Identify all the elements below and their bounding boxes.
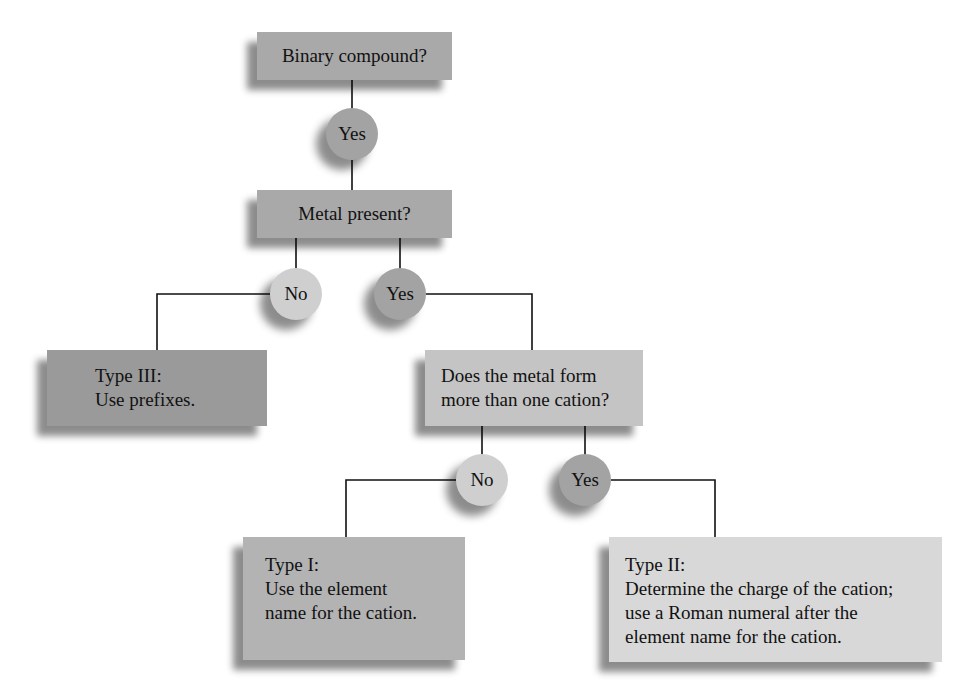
metal-present-box: Metal present? xyxy=(257,190,452,238)
no-circle-cation: No xyxy=(456,454,508,506)
cation-question-label: Does the metal form more than one cation… xyxy=(441,364,609,412)
type-ii-label: Type II: Determine the charge of the cat… xyxy=(625,553,893,649)
type-iii-label: Type III: Use prefixes. xyxy=(95,364,195,412)
binary-compound-label: Binary compound? xyxy=(257,44,452,68)
no-circle-metal: No xyxy=(270,268,322,320)
binary-compound-box: Binary compound? xyxy=(257,32,452,80)
yes-label: Yes xyxy=(386,283,414,305)
type-iii-box: Type III: Use prefixes. xyxy=(47,350,267,426)
yes-circle-metal: Yes xyxy=(374,268,426,320)
no-label: No xyxy=(284,283,307,305)
yes-label: Yes xyxy=(571,469,599,491)
cation-question-box: Does the metal form more than one cation… xyxy=(425,350,643,426)
no-label: No xyxy=(470,469,493,491)
type-i-box: Type I: Use the element name for the cat… xyxy=(243,537,465,660)
type-i-label: Type I: Use the element name for the cat… xyxy=(265,553,417,625)
metal-present-label: Metal present? xyxy=(257,202,452,226)
yes-circle-cation: Yes xyxy=(559,454,611,506)
yes-label: Yes xyxy=(338,123,366,145)
yes-circle-binary: Yes xyxy=(326,108,378,160)
type-ii-box: Type II: Determine the charge of the cat… xyxy=(609,537,942,662)
